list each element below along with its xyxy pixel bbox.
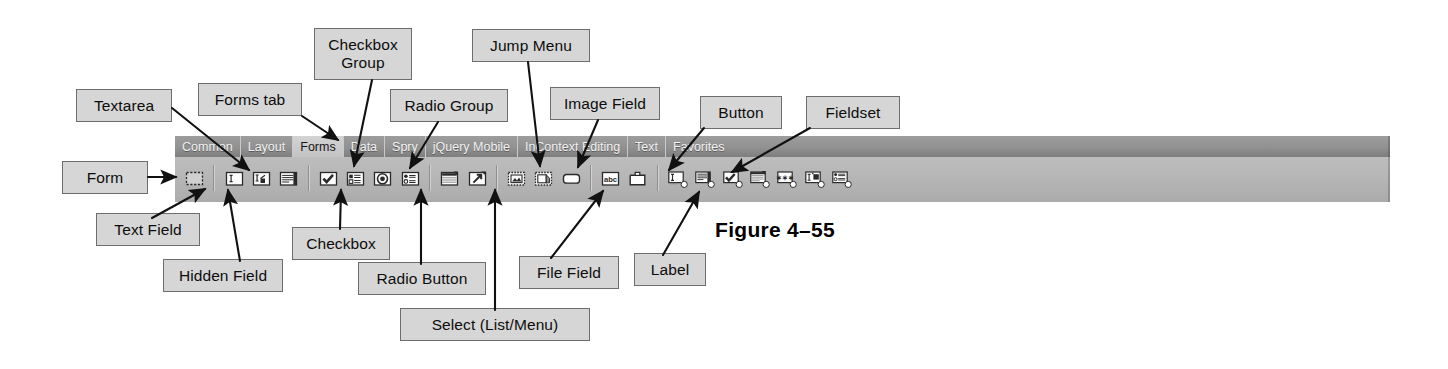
icon-list: abc∗∗∗ [181,161,855,195]
text-field-icon[interactable] [224,168,245,189]
callout-button: Button [700,96,782,129]
callout-fieldset: Fieldset [806,96,900,129]
callout-hidden-field: Hidden Field [163,259,283,292]
callout-textarea: Textarea [76,89,172,122]
callout-image-field: Image Field [550,87,660,120]
tab-label: Data [351,140,377,154]
image-field-icon[interactable] [506,168,527,189]
tab-label: Forms [300,140,335,154]
tab-data[interactable]: Data [344,136,385,157]
svg-text:∗∗∗: ∗∗∗ [776,173,794,180]
spry-textarea-icon[interactable] [694,168,715,189]
tab-common[interactable]: Common [175,136,241,157]
callout-checkbox: Checkbox [292,227,390,260]
tab-label: Layout [248,140,286,154]
spry-select-icon[interactable] [749,168,770,189]
tab-favorites[interactable]: Favorites [666,136,731,157]
spry-confirm-icon[interactable] [804,168,825,189]
label-icon[interactable]: abc [600,168,621,189]
tab-label: Text [635,140,658,154]
insert-toolbar-tab-bar: CommonLayoutFormsDataSpryjQuery MobileIn… [175,136,1390,158]
checkbox-group-icon[interactable] [345,168,366,189]
tab-label: Spry [392,140,418,154]
checkbox-icon[interactable] [318,168,339,189]
callout-label: Label [634,253,706,286]
toolbar-right-edge [1388,136,1390,202]
fieldset-icon[interactable] [627,168,648,189]
radio-group-icon[interactable] [400,168,421,189]
button-icon[interactable] [561,168,582,189]
toolbar-divider [308,165,310,191]
tab-label: jQuery Mobile [433,140,510,154]
callout-text-field: Text Field [96,213,200,246]
jump-menu-icon[interactable] [467,168,488,189]
select-list-menu-icon[interactable] [439,168,460,189]
callout-radio-button: Radio Button [358,262,486,295]
tab-label: InContext Editing [525,140,620,154]
tab-label: Common [182,140,233,154]
spry-password-icon[interactable]: ∗∗∗ [776,168,797,189]
toolbar-divider [213,165,215,191]
callout-radio-group: Radio Group [390,89,508,122]
svg-text:abc: abc [604,174,617,183]
toolbar-divider [496,165,498,191]
insert-toolbar: CommonLayoutFormsDataSpryjQuery MobileIn… [175,136,1390,202]
toolbar-divider [590,165,592,191]
callout-select: Select (List/Menu) [400,308,590,341]
hidden-field-icon[interactable] [251,168,272,189]
tab-text[interactable]: Text [628,136,666,157]
tab-layout[interactable]: Layout [241,136,294,157]
spry-radio-group-icon[interactable] [831,168,852,189]
file-field-icon[interactable] [533,168,554,189]
figure-caption: Figure 4–55 [715,218,835,242]
callout-forms-tab: Forms tab [198,83,302,116]
callout-form: Form [62,161,148,194]
tab-label: Favorites [673,140,724,154]
figure-canvas: CommonLayoutFormsDataSpryjQuery MobileIn… [0,0,1448,369]
form-icon[interactable] [184,168,205,189]
tab-incontext-editing[interactable]: InContext Editing [518,136,628,157]
callout-file-field: File Field [519,256,619,289]
radio-button-icon[interactable] [372,168,393,189]
tab-jquery-mobile[interactable]: jQuery Mobile [426,136,518,157]
tab-forms[interactable]: Forms [293,136,343,157]
toolbar-divider [657,165,659,191]
toolbar-divider [429,165,431,191]
textarea-icon[interactable] [278,168,299,189]
callout-checkbox-group: Checkbox Group [314,28,412,80]
tab-spry[interactable]: Spry [385,136,426,157]
spry-checkbox-icon[interactable] [722,168,743,189]
tab-list: CommonLayoutFormsDataSpryjQuery MobileIn… [175,136,731,157]
spry-text-field-icon[interactable] [667,168,688,189]
callout-jump-menu: Jump Menu [472,29,590,62]
insert-toolbar-icon-bar: abc∗∗∗ [175,157,1390,202]
